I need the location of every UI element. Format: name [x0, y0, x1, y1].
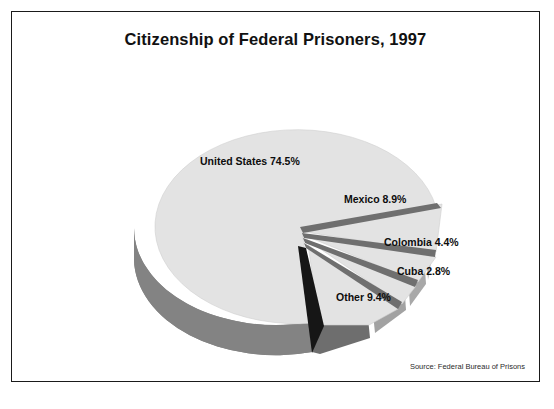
chart-figure-frame: Citizenship of Federal Prisoners, 1997	[11, 11, 540, 382]
pie-chart-svg	[12, 12, 541, 383]
pie-label-mexico: Mexico 8.9%	[344, 193, 406, 205]
pie-label-united-states: United States 74.5%	[200, 155, 300, 167]
pie-label-colombia: Colombia 4.4%	[384, 236, 459, 248]
pie-chart	[12, 12, 541, 383]
pie-label-other: Other 9.4%	[336, 291, 391, 303]
source-note: Source: Federal Bureau of Prisons	[410, 362, 525, 371]
pie-label-cuba: Cuba 2.8%	[397, 265, 450, 277]
